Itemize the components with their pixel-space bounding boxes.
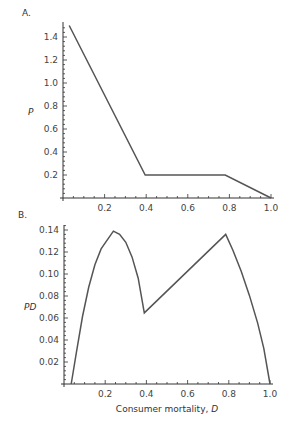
- y-tick-label: 1.4: [44, 32, 59, 42]
- y-tick-label: 0.8: [44, 101, 59, 111]
- y-tick-label: 0.14: [39, 225, 59, 235]
- y-tick-label: 0.08: [39, 291, 59, 301]
- y-tick-label: 0.6: [44, 124, 59, 134]
- panel-b-series-line: [71, 231, 270, 384]
- y-tick-label: 1.2: [44, 55, 58, 65]
- y-tick-label: 0.04: [39, 335, 59, 345]
- x-tick-label: 0.6: [180, 389, 195, 399]
- panel-b-tick-labels: 0.20.40.60.81.00.020.040.060.080.100.120…: [39, 225, 277, 399]
- x-tick-label: 0.4: [139, 389, 154, 399]
- chart: A. P 0.20.40.60.81.00.20.40.60.81.01.21.…: [0, 0, 292, 426]
- y-tick-label: 0.2: [44, 170, 58, 180]
- panel-a-series-line: [69, 26, 271, 199]
- panel-a-tick-labels: 0.20.40.60.81.00.20.40.60.81.01.21.4: [44, 32, 279, 213]
- y-tick-label: 0.06: [39, 313, 59, 323]
- x-tick-label: 1.0: [263, 389, 278, 399]
- y-tick-label: 1.0: [44, 78, 59, 88]
- x-tick-label: 1.0: [264, 203, 279, 213]
- x-tick-label: 0.8: [222, 203, 237, 213]
- panel-b-ticks: [64, 226, 270, 384]
- panel-b-x-axis-title: Consumer mortality, D: [116, 404, 218, 414]
- panel-a-ticks: [63, 28, 271, 198]
- x-axis-title-variable: D: [211, 404, 218, 414]
- x-tick-label: 0.8: [222, 389, 237, 399]
- x-tick-label: 0.2: [97, 203, 111, 213]
- y-tick-label: 0.02: [39, 357, 59, 367]
- x-axis-title-text: Consumer mortality,: [116, 404, 211, 414]
- y-tick-label: 0.10: [39, 269, 59, 279]
- panel-a-label: A.: [22, 8, 31, 18]
- y-tick-label: 0.12: [39, 247, 59, 257]
- x-tick-label: 0.2: [98, 389, 112, 399]
- panel-b-label: B.: [18, 210, 27, 220]
- panel-b-y-axis-title: PD: [24, 302, 36, 312]
- x-tick-label: 0.4: [139, 203, 154, 213]
- panel-a-y-axis-title: P: [28, 107, 34, 117]
- x-tick-label: 0.6: [181, 203, 196, 213]
- panel-b: B. PD 0.20.40.60.81.00.020.040.060.080.1…: [18, 210, 277, 414]
- panel-a: A. P 0.20.40.60.81.00.20.40.60.81.01.21.…: [22, 8, 278, 213]
- y-tick-label: 0.4: [44, 147, 59, 157]
